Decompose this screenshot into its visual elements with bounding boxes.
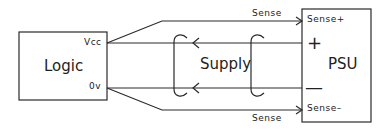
- sense-plus-terminal: Sense+: [307, 15, 345, 24]
- sense-minus-line: [107, 88, 302, 110]
- sense-minus-terminal: Sense–: [307, 104, 342, 113]
- logic-label: Logic: [44, 59, 83, 74]
- gnd-pin-label: 0v: [89, 82, 101, 91]
- supply-label: Supply: [200, 57, 251, 72]
- minus-terminal: —: [305, 78, 323, 96]
- plus-terminal: +: [307, 34, 322, 52]
- vcc-pin-label: Vcc: [84, 38, 102, 47]
- right-cable-bracket-icon: [251, 35, 264, 96]
- sense-bottom-label: Sense: [252, 114, 282, 123]
- psu-label: PSU: [328, 57, 358, 72]
- sense-top-label: Sense: [252, 9, 282, 18]
- left-cable-bracket-icon: [174, 35, 187, 96]
- sense-plus-line: [107, 21, 302, 43]
